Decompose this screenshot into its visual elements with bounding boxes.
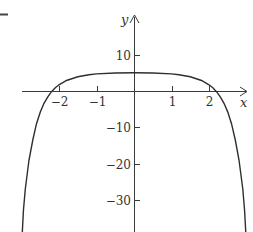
x-axis-label: x [240, 95, 248, 110]
y-tick-label: −10 [106, 121, 131, 135]
x-tick-label: −2 [51, 95, 69, 109]
y-tick-label: −30 [106, 194, 131, 208]
x-tick-label: −1 [89, 95, 107, 109]
y-axis-label: y [120, 12, 129, 27]
x-tick-label: 2 [206, 95, 214, 109]
x-ticks: −2−112 [51, 86, 214, 109]
y-tick-label: −20 [106, 158, 131, 172]
chart: x y −2−112 10−10−20−30 [0, 0, 253, 232]
x-tick-label: 1 [169, 95, 177, 109]
y-tick-label: 10 [116, 49, 131, 63]
